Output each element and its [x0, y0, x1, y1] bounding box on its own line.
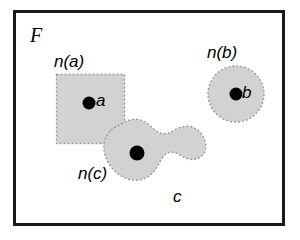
- point-c-dot: [130, 146, 145, 161]
- label-n-b: n(b): [207, 44, 237, 61]
- label-point-c-outer: c: [173, 188, 182, 205]
- point-b-dot: [230, 88, 243, 101]
- diagram-shapes: [0, 0, 300, 240]
- label-point-a: a: [96, 92, 105, 109]
- label-n-a: n(a): [54, 53, 84, 70]
- point-a-dot: [83, 97, 96, 110]
- label-n-c: n(c): [78, 165, 107, 182]
- frame-label-F: F: [30, 25, 42, 45]
- label-point-b: b: [242, 84, 251, 101]
- region-n-c-blob: [104, 119, 206, 180]
- figure-canvas: F n(a) n(b) n(c) a b c: [0, 0, 300, 240]
